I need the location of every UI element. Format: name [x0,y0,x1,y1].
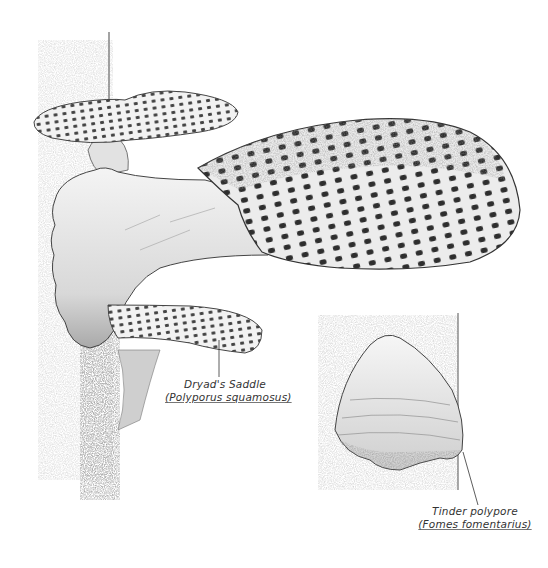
tinder-polypore-common-name: Tinder polypore [415,505,535,518]
dryads-saddle-small-cap-bottom [108,305,262,430]
tinder-polypore-scientific-name: (Fomes fomentarius) [415,518,535,531]
tinder-polypore-leader-line [463,452,478,505]
dryads-saddle-scientific-name: (Polyporus squamosus) [165,391,285,404]
dryads-saddle-label: Dryad's Saddle (Polyporus squamosus) [165,378,285,404]
fungi-illustration [0,0,548,568]
tinder-polypore-label: Tinder polypore (Fomes fomentarius) [415,505,535,531]
dryads-saddle-common-name: Dryad's Saddle [165,378,285,391]
